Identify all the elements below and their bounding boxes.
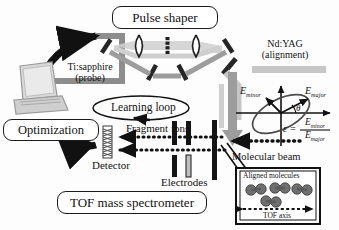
learning-loop-label: Learning loop — [111, 101, 176, 113]
optimization-label: Optimization — [18, 123, 84, 138]
epsilon-numerator: Eminor — [305, 118, 325, 129]
e-major-vector — [281, 99, 308, 113]
tisapphire-line2: (probe) — [56, 73, 124, 84]
theta-label: θ — [296, 104, 300, 113]
numerator-subscript: minor — [311, 123, 325, 129]
tisapphire-label: Ti:sapphire (probe) — [56, 62, 124, 83]
e-major-label: Emajor — [305, 86, 326, 99]
molecular-beam-label: Molecular beam — [232, 151, 301, 162]
tof-spectrometer-box[interactable]: TOF mass spectrometer — [57, 191, 207, 214]
inset-title: Aligned molecules — [243, 172, 299, 180]
ndyag-label: Nd:YAG (alignment) — [249, 39, 321, 60]
ndyag-line2: (alignment) — [249, 50, 321, 61]
e-minor-label: Eminor — [240, 86, 261, 99]
e-minor-subscript: minor — [246, 91, 261, 98]
beam-arrowhead — [222, 130, 243, 146]
repeller-plate — [212, 120, 217, 180]
denominator-subscript: major — [311, 136, 325, 142]
lens-left — [136, 35, 143, 57]
pulse-shaper-box[interactable]: Pulse shaper — [112, 6, 218, 29]
e-major-subscript: major — [311, 91, 326, 98]
epsilon-symbol: ε = — [283, 124, 296, 135]
tof-axis-label: TOF axis — [263, 212, 291, 220]
epsilon-denominator: Emajor — [305, 131, 325, 142]
lens-right — [193, 35, 200, 57]
electrodes-label: Electrodes — [161, 177, 207, 189]
tof-spectrometer-label: TOF mass spectrometer — [70, 195, 194, 211]
detector-label: Detector — [92, 160, 130, 172]
ndyag-line1: Nd:YAG — [249, 39, 321, 50]
pulse-shaper-label: Pulse shaper — [132, 10, 197, 26]
fragment-ions-label: Fragment ions — [126, 123, 189, 135]
detector-mcp — [103, 126, 112, 158]
optimization-box[interactable]: Optimization — [3, 119, 99, 141]
figure-canvas: Pulse shaper Optimization TOF mass spect… — [0, 0, 339, 230]
tisapphire-line1: Ti:sapphire — [56, 62, 124, 73]
